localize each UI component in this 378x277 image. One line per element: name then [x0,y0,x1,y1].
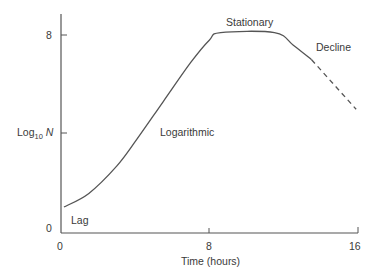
x-axis-title: Time (hours) [181,256,240,267]
growth-curve-solid [64,31,312,207]
growth-curve-dashed [312,60,357,110]
x-tick-label-8: 8 [206,241,212,252]
y-tick-label-8: 8 [46,30,52,41]
x-tick-label-16: 16 [349,241,361,252]
y-axis-title-log: Log [17,126,35,138]
phase-label-decline: Decline [316,42,351,53]
phase-label-logarithmic: Logarithmic [160,127,214,138]
y-axis-title: Log10 N [17,127,53,141]
y-axis-title-sub: 10 [35,132,43,141]
y-tick-label-0: 0 [46,223,52,234]
y-axis-title-var: N [46,126,54,138]
phase-label-lag: Lag [71,215,89,226]
phase-label-stationary: Stationary [226,17,273,28]
x-tick-label-0: 0 [57,241,63,252]
